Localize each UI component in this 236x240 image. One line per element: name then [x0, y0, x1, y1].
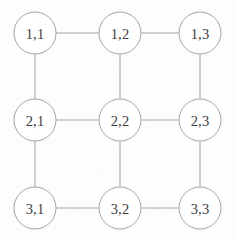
graph-node[interactable]: 3,1: [14, 187, 56, 229]
graph-node[interactable]: 1,3: [179, 12, 221, 54]
node-label: 3,3: [191, 201, 210, 217]
grid-graph: 1,11,21,32,12,22,33,13,23,3: [0, 0, 236, 240]
node-label: 1,2: [111, 26, 130, 42]
graph-node[interactable]: 2,3: [179, 99, 221, 141]
node-label: 3,2: [111, 201, 130, 217]
graph-node[interactable]: 3,2: [99, 187, 141, 229]
node-label: 3,1: [26, 201, 45, 217]
nodes-layer: 1,11,21,32,12,22,33,13,23,3: [14, 12, 221, 229]
graph-node[interactable]: 1,2: [99, 12, 141, 54]
graph-node[interactable]: 2,2: [99, 99, 141, 141]
graph-node[interactable]: 1,1: [14, 12, 56, 54]
node-label: 2,1: [26, 113, 45, 129]
graph-node[interactable]: 3,3: [179, 187, 221, 229]
node-label: 1,3: [191, 26, 210, 42]
diagram-canvas: 1,11,21,32,12,22,33,13,23,3: [0, 0, 236, 240]
node-label: 1,1: [26, 26, 45, 42]
node-label: 2,3: [191, 113, 210, 129]
graph-node[interactable]: 2,1: [14, 99, 56, 141]
node-label: 2,2: [111, 113, 130, 129]
